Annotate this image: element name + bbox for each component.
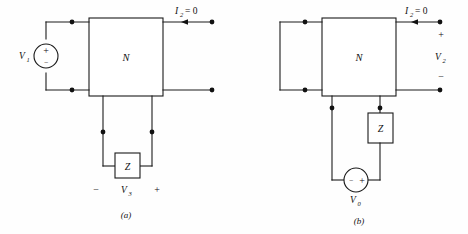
- current-label-a: I: [174, 6, 179, 16]
- current-arrow-b: [411, 19, 418, 24]
- network-label-a: N: [121, 52, 130, 63]
- v3-minus-sign: −: [93, 184, 99, 195]
- network-label-b: N: [354, 52, 363, 63]
- figure-root: N + − V 1 I: [0, 0, 468, 234]
- node-dot-a-in-bottom: [70, 88, 75, 93]
- node-dot-a-bottom-left: [101, 130, 106, 135]
- node-dot-b-bottom-right: [378, 106, 383, 111]
- caption-b: (b): [354, 216, 365, 226]
- v1-label: V: [19, 51, 26, 61]
- v2-plus-sign: +: [438, 29, 444, 40]
- impedance-label-b: Z: [378, 123, 384, 134]
- v2-minus-sign: −: [438, 71, 444, 82]
- caption-a: (a): [121, 210, 132, 220]
- terminal-dot-b-out-bottom: [438, 88, 443, 93]
- terminal-dot-a-out-top: [210, 20, 215, 25]
- panel-b-group: N I 2 = 0 + V 2 −: [280, 6, 446, 226]
- node-dot-b-bottom-left: [330, 106, 335, 111]
- current-equals-zero-a: = 0: [185, 6, 198, 16]
- circuit-diagram-canvas: N + − V 1 I: [0, 0, 468, 234]
- current-label-b-sub: 2: [410, 11, 414, 18]
- current-label-a-sub: 2: [180, 11, 184, 18]
- terminal-dot-a-out-bottom: [210, 88, 215, 93]
- v1-minus-sign: −: [44, 58, 48, 67]
- current-label-b: I: [404, 6, 409, 16]
- v1-label-sub: 1: [26, 56, 29, 63]
- v0-minus-sign: −: [349, 176, 353, 185]
- v3-label-sub: 3: [127, 190, 132, 197]
- current-arrow-a: [181, 19, 188, 24]
- v3-plus-sign: +: [154, 184, 160, 195]
- v2-label-sub: 2: [442, 57, 446, 64]
- terminal-dot-b-out-top: [438, 20, 443, 25]
- node-dot-a-bottom-right: [150, 130, 155, 135]
- v2-label: V: [435, 52, 442, 62]
- v0-plus-sign: +: [359, 175, 365, 186]
- node-dot-b-in-bottom: [303, 88, 308, 93]
- v0-label-sub: 0: [357, 200, 361, 207]
- v0-label: V: [350, 195, 357, 205]
- node-dot-b-in-top: [303, 20, 308, 25]
- current-equals-zero-b: = 0: [415, 6, 428, 16]
- v3-label: V: [121, 185, 128, 195]
- node-dot-a-in-top: [70, 20, 75, 25]
- panel-a-group: N + − V 1 I: [19, 6, 214, 220]
- v1-plus-sign: +: [43, 45, 49, 56]
- impedance-label-a: Z: [125, 161, 131, 172]
